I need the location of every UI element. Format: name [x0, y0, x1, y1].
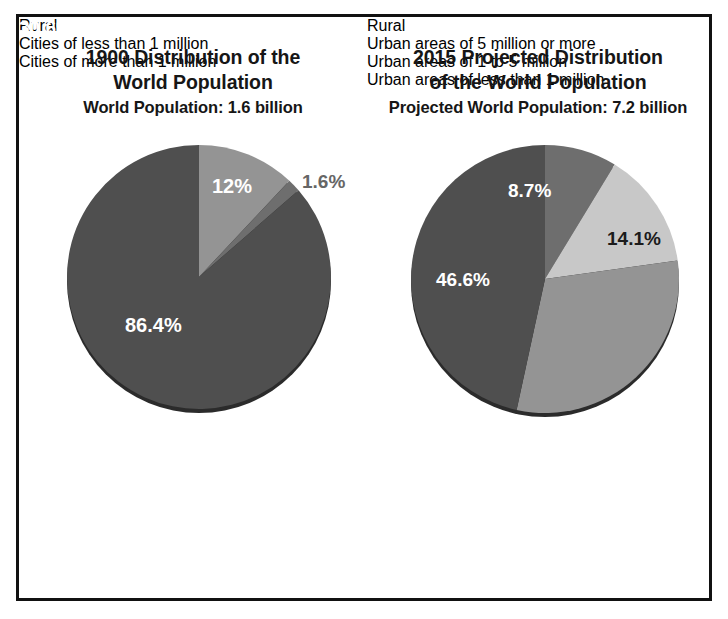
- slice-label-2015-urban-under-1m: 30.6%: [19, 17, 73, 39]
- figure-frame: 1900 Distribution of the World Populatio…: [16, 14, 712, 601]
- chart-title-2015-line1: 2015 Projected Distribution: [367, 45, 709, 70]
- chart-subtitle-2015: Projected World Population: 7.2 billion: [367, 97, 709, 118]
- slice-label-1900-rural: 86.4%: [125, 314, 182, 337]
- chart-panel-1900: 1900 Distribution of the World Populatio…: [19, 17, 367, 598]
- slice-label-2015-rural: 46.6%: [436, 269, 490, 291]
- chart-title-1900: 1900 Distribution of the World Populatio…: [19, 45, 367, 95]
- chart-title-1900-line2: World Population: [19, 70, 367, 95]
- slice-label-2015-urban-5m-plus: 8.7%: [508, 180, 551, 202]
- legend-item-2015-label: Rural: [367, 17, 405, 34]
- pie-chart-1900: [63, 145, 335, 417]
- chart-title-1900-line1: 1900 Distribution of the: [19, 45, 367, 70]
- slice-label-2015-urban-1-to-5m: 14.1%: [607, 228, 661, 250]
- chart-title-2015: 2015 Projected Distribution of the World…: [367, 45, 709, 95]
- chart-panel-2015: 2015 Projected Distribution of the World…: [367, 17, 709, 598]
- legend-item-2015-row[interactable]: Rural: [367, 17, 709, 35]
- slice-label-1900-cities-under-1m: 12%: [212, 175, 252, 198]
- chart-subtitle-1900: World Population: 1.6 billion: [19, 97, 367, 118]
- pie-chart-1900-svg: [63, 145, 335, 417]
- chart-title-2015-line2: of the World Population: [367, 70, 709, 95]
- slice-label-1900-cities-over-1m: 1.6%: [302, 171, 345, 193]
